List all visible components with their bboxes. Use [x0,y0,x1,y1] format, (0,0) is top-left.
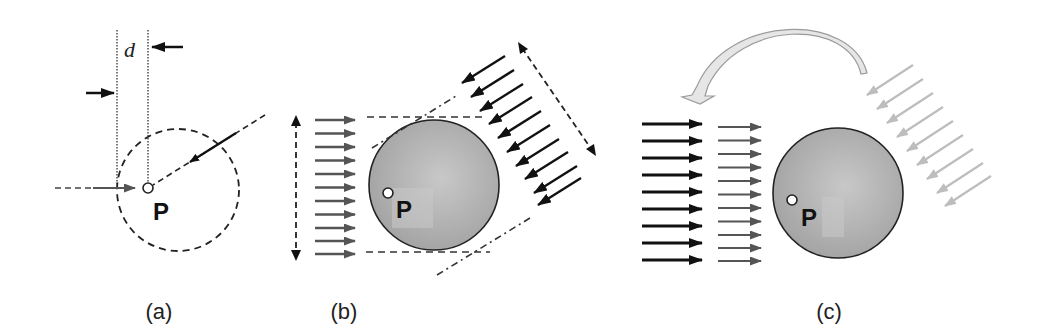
sphere [369,120,499,250]
dashed-circle [117,129,239,251]
sphere-highlight [822,197,844,237]
arrowhead-diag-up-icon [518,42,528,54]
arrowhead-diag-down-icon [586,144,596,156]
horizontal-parallel-rays [315,120,355,254]
caption-a: (a) [146,299,173,324]
black-parallel-rays [642,124,702,260]
figure-canvas: d P [0,0,1041,334]
panel-a: d P [55,30,265,251]
arrowhead-down-icon [291,250,301,261]
panel-b: P [291,42,596,275]
distance-label: d [124,37,136,62]
point-p-marker [383,188,393,198]
point-p-label: P [801,204,817,231]
curved-rotation-arrow [682,29,867,104]
sphere [773,128,903,258]
point-p-marker [787,195,797,205]
caption-b: (b) [331,299,358,324]
arrowhead-up-icon [291,115,301,126]
point-p-marker [143,183,153,193]
panel-c: P [642,29,991,261]
point-p-label: P [396,196,412,223]
point-p-label: P [153,198,169,225]
gray-parallel-rays [718,127,761,261]
caption-c: (c) [816,299,842,324]
